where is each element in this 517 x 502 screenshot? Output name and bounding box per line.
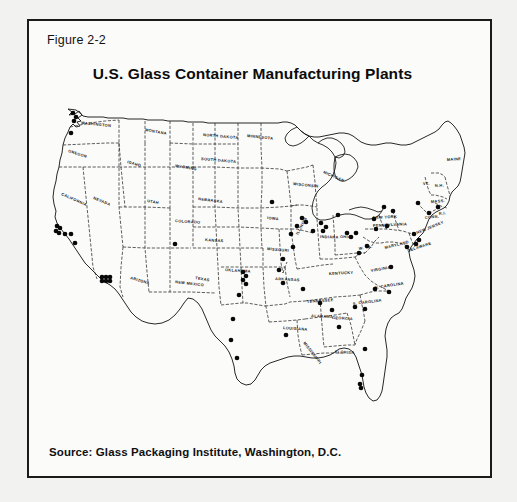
state-label-indiana: INDIANA [320,234,339,240]
state-label-new-york: NEW YORK [373,214,397,220]
state-boundaries [59,120,450,355]
plant-location-dot [235,356,240,361]
plant-location-dot [284,333,289,338]
state-label-oklahoma: OKLAHOMA [225,267,251,274]
plant-location-dot [405,245,410,250]
state-label-south-dakota: SOUTH DAKOTA [201,156,237,164]
plant-location-dot [71,111,76,116]
state-label-north-dakota: NORTH DAKOTA [203,132,239,140]
state-label-colorado: COLORADO [175,218,201,225]
plant-location-dot [387,290,392,295]
plant-location-dot [291,245,296,250]
state-label-virginia: VIRGINIA [370,265,391,273]
state-label-idaho: IDAHO [127,159,142,168]
state-label-georgia: GEORGIA [332,315,353,321]
source-note: Source: Glass Packaging Institute, Washi… [49,446,341,458]
plant-location-dot [416,201,421,206]
state-label-minnesota: MINNESOTA [247,133,274,141]
plant-location-dot [436,205,441,210]
state-label-pennsylvania: PENNSYLVANIA [373,221,407,228]
plant-location-dot [360,373,365,378]
state-label-maine: MAINE [447,156,462,162]
plant-location-dot [373,287,378,292]
plant-location-dot [330,308,335,313]
plant-location-dot [108,275,113,280]
plant-dot-layer [54,111,441,391]
national-outline [53,109,465,401]
state-label-washington: WASHINGTON [81,120,112,128]
plant-location-dot [357,251,362,256]
plant-location-dot [69,232,74,237]
plant-location-dot [281,281,286,286]
plant-location-dot [324,225,329,230]
plant-location-dot [104,279,109,284]
plant-location-dot [237,293,242,298]
plant-location-dot [311,229,316,234]
plant-location-dot [244,282,249,287]
plant-location-dot [412,232,417,237]
plant-location-dot [389,265,394,270]
plant-location-dot [354,231,359,236]
plant-location-dot [104,275,109,280]
map-svg: WASHINGTON OREGON CALIFORNIA NEVADA IDAH… [35,107,485,417]
plant-location-dot [74,115,79,120]
plant-location-dot [417,238,422,243]
plant-location-dot [382,205,387,210]
plant-location-dot [108,279,113,284]
plant-location-dot [427,211,432,216]
state-label-alabama: ALABAMA [311,313,333,319]
plant-location-dot [358,382,363,387]
state-label-kentucky: KENTUCKY [329,270,354,276]
plant-location-dot [321,229,326,234]
plant-location-dot [301,287,306,292]
state-label-missouri: MISSOURI [267,246,289,253]
state-label-kansas: KANSAS [205,237,224,243]
state-label-ri: R.I. [439,210,447,216]
plant-location-dot [353,305,358,310]
plant-location-dot [72,119,77,124]
state-label-florida: FLORIDA [335,349,355,355]
plant-location-dot [281,257,286,262]
state-label-mass: MASS. [431,198,445,204]
plant-location-dot [349,235,354,240]
state-label-conn: CONN. [425,214,440,220]
plant-location-dot [57,231,62,236]
state-label-n-carolina: N. CAROLINA [374,280,404,290]
plant-location-dot [270,200,275,205]
state-label-vt: VT. [423,181,430,186]
plant-location-dot [372,217,377,222]
plant-location-dot [100,279,105,284]
plant-location-dot [304,220,309,225]
state-label-nevada: NEVADA [93,195,112,206]
plant-location-dot [391,209,396,214]
plant-location-dot [385,224,390,229]
state-name-labels: WASHINGTON OREGON CALIFORNIA NEVADA IDAH… [61,120,462,365]
plant-location-dot [345,231,350,236]
state-label-utah: UTAH [147,198,160,205]
state-label-nh: N.H. [435,182,445,188]
plant-location-dot [319,221,324,226]
plant-location-dot [229,338,234,343]
plant-location-dot [295,224,300,229]
state-label-s-carolina: S. CAROLINA [353,297,383,306]
state-label-delaware: DELAWARE [407,241,432,253]
figure-number-label: Figure 2-2 [47,33,106,47]
plant-location-dot [359,386,364,391]
plant-location-dot [414,242,419,247]
plant-location-dot [63,232,68,237]
plant-location-dot [241,278,246,283]
state-label-mississippi: MISSISSIPPI [302,341,323,365]
plant-location-dot [363,307,368,312]
state-label-oregon: OREGON [68,148,88,159]
state-label-california: CALIFORNIA [61,191,88,207]
figure-frame: Figure 2-2 U.S. Glass Container Manufact… [27,19,492,478]
plant-location-dot [318,301,323,306]
plant-location-dot [289,232,294,237]
plant-location-dot [337,325,342,330]
plant-location-dot [336,213,341,218]
state-label-new-jersey: NEW JERSEY [416,219,445,235]
plant-location-dot [58,226,63,231]
state-label-wyoming: WYOMING [175,163,197,171]
plant-location-dot [231,317,236,322]
state-label-louisiana: LOUISIANA [283,325,308,332]
